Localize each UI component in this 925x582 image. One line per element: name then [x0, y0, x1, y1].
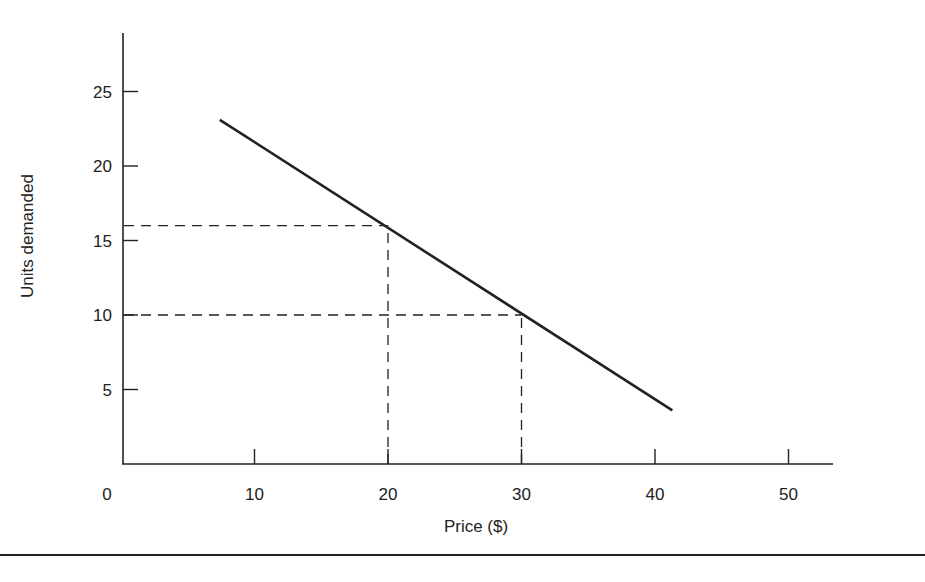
- y-axis-title: Units demanded: [18, 174, 37, 298]
- y-tick-label: 15: [93, 232, 112, 251]
- x-tick-labels: 01020304050: [102, 485, 798, 504]
- demand-chart: 510152025 01020304050 Units demanded Pri…: [0, 0, 925, 582]
- y-tick-label: 25: [93, 83, 112, 102]
- y-tick-labels: 510152025: [93, 83, 112, 400]
- x-tick-label: 0: [102, 485, 111, 504]
- x-axis-title: Price ($): [444, 517, 508, 536]
- x-tick-label: 30: [512, 485, 531, 504]
- y-tick-label: 5: [103, 381, 112, 400]
- x-tick-label: 40: [646, 485, 665, 504]
- y-tick-label: 10: [93, 306, 112, 325]
- x-tick-label: 20: [379, 485, 398, 504]
- demand-curve-line: [220, 120, 673, 411]
- x-tick-label: 50: [779, 485, 798, 504]
- y-tick-label: 20: [93, 157, 112, 176]
- x-tick-label: 10: [245, 485, 264, 504]
- plot-area: [122, 33, 833, 464]
